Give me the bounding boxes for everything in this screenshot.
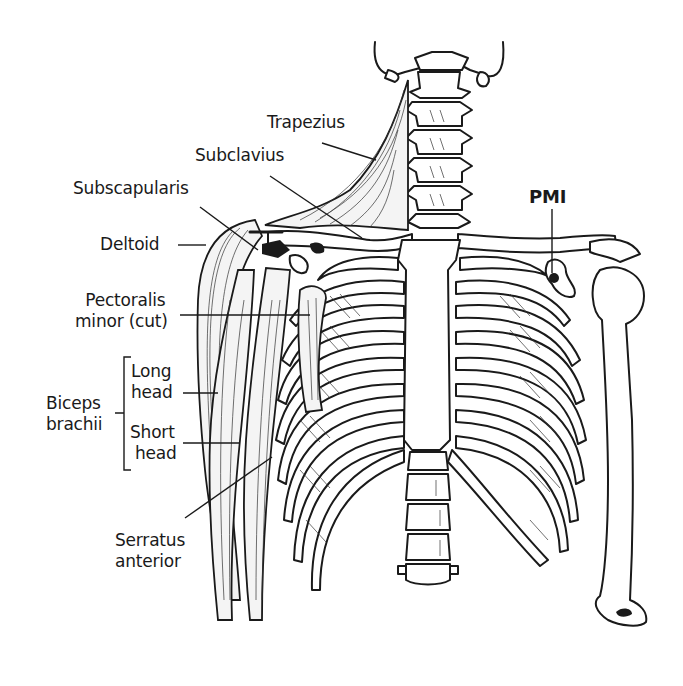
ribs-left bbox=[276, 257, 404, 590]
label-short-head-line1: Short bbox=[130, 422, 177, 443]
label-pmi: PMI bbox=[529, 186, 566, 207]
label-trapezius: Trapezius bbox=[267, 112, 345, 133]
label-deltoid: Deltoid bbox=[100, 234, 159, 255]
biceps-bracket bbox=[115, 357, 131, 470]
label-short-head-line2: head bbox=[130, 443, 177, 464]
leader-trapezius bbox=[322, 143, 376, 160]
label-serratus-line1: Serratus bbox=[115, 530, 185, 551]
label-pectoralis-minor-line2: minor (cut) bbox=[75, 311, 168, 332]
cervical-spine bbox=[406, 72, 472, 228]
label-biceps-line1: Biceps bbox=[46, 393, 102, 414]
label-biceps-brachii: Biceps brachii bbox=[46, 393, 102, 435]
label-short-head: Short head bbox=[130, 422, 177, 464]
trapezius-muscle bbox=[265, 80, 408, 230]
sternum bbox=[398, 240, 460, 450]
label-subscapularis: Subscapularis bbox=[73, 178, 189, 199]
label-long-head-line1: Long bbox=[131, 361, 173, 382]
label-pectoralis-minor: Pectoralis minor (cut) bbox=[75, 290, 168, 332]
pmi-point-marker bbox=[549, 273, 559, 283]
ribs-right bbox=[448, 257, 586, 566]
label-long-head: Long head bbox=[131, 361, 173, 403]
label-biceps-line2: brachii bbox=[46, 414, 102, 435]
label-pectoralis-minor-line1: Pectoralis bbox=[75, 290, 168, 311]
thoracic-spine bbox=[398, 452, 458, 585]
anatomy-illustration bbox=[0, 0, 683, 686]
label-subclavius: Subclavius bbox=[195, 145, 284, 166]
label-serratus-line2: anterior bbox=[115, 551, 185, 572]
label-serratus-anterior: Serratus anterior bbox=[115, 530, 185, 572]
label-long-head-line2: head bbox=[131, 382, 173, 403]
